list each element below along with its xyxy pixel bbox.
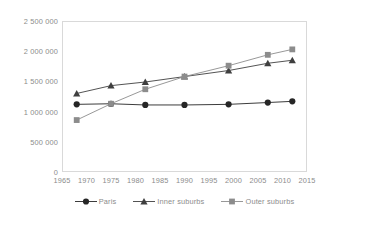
x-axis-tick-label: 2000 xyxy=(225,176,242,185)
legend-item-inner-suburbs[interactable]: Inner suburbs xyxy=(133,197,204,206)
legend-label: Outer suburbs xyxy=(245,197,294,206)
x-axis-tick-label: 1970 xyxy=(78,176,95,185)
x-axis-tick-label: 1965 xyxy=(53,176,70,185)
plot-series-layer xyxy=(62,21,307,172)
x-axis-tick-label: 1990 xyxy=(176,176,193,185)
x-axis-tick-label: 1985 xyxy=(151,176,168,185)
series-paris xyxy=(74,98,296,108)
x-axis: 1965197019751980198519901995200020052010… xyxy=(0,176,369,190)
square-marker-icon xyxy=(221,197,243,206)
x-axis-tick-label: 2015 xyxy=(298,176,315,185)
legend-item-paris[interactable]: Paris xyxy=(75,197,117,206)
legend-label: Inner suburbs xyxy=(157,197,204,206)
y-axis-tick-label: 2 500 000 xyxy=(24,17,58,26)
circle-data-point-marker xyxy=(289,98,295,104)
legend-item-outer-suburbs[interactable]: Outer suburbs xyxy=(221,197,294,206)
circle-data-point-marker xyxy=(74,101,80,107)
legend-label: Paris xyxy=(99,197,117,206)
triangle-data-point-marker xyxy=(289,57,296,64)
circle-data-point-marker xyxy=(226,101,232,107)
circle-data-point-marker xyxy=(265,99,271,105)
square-data-point-marker xyxy=(265,52,271,58)
square-data-point-marker xyxy=(226,63,232,69)
x-axis-tick-label: 1995 xyxy=(200,176,217,185)
circle-data-point-marker xyxy=(181,102,187,108)
population-line-chart: 0500 0001 000 0001 500 0002 000 0002 500… xyxy=(0,0,369,225)
x-axis-tick-label: 2005 xyxy=(249,176,266,185)
y-axis-tick-label: 1 500 000 xyxy=(24,77,58,86)
chart-legend: ParisInner suburbsOuter suburbs xyxy=(0,192,369,210)
square-data-point-marker xyxy=(230,198,236,204)
x-axis-tick-label: 1975 xyxy=(102,176,119,185)
square-data-point-marker xyxy=(182,74,188,80)
square-data-point-marker xyxy=(142,86,148,92)
x-axis-tick-label: 1980 xyxy=(127,176,144,185)
y-axis-tick-label: 2 000 000 xyxy=(24,47,58,56)
square-data-point-marker xyxy=(74,117,80,123)
y-axis-tick-label: 500 000 xyxy=(30,137,58,146)
square-data-point-marker xyxy=(289,46,295,52)
y-axis-tick-label: 1 000 000 xyxy=(24,107,58,116)
triangle-marker-icon xyxy=(133,197,155,206)
circle-data-point-marker xyxy=(142,102,148,108)
series-outer-suburbs xyxy=(74,46,295,122)
x-axis-tick-label: 2010 xyxy=(274,176,291,185)
square-data-point-marker xyxy=(108,101,114,107)
circle-data-point-marker xyxy=(83,198,89,204)
series-line xyxy=(77,49,293,120)
circle-marker-icon xyxy=(75,197,97,206)
